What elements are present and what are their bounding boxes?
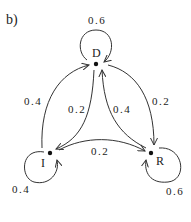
edge-label-i-i: 0.4: [12, 183, 30, 195]
node-d: D: [92, 46, 101, 66]
node-i-dot: [48, 151, 52, 155]
edge-label-d-d: 0.6: [88, 14, 106, 26]
markov-chain-diagram: b) 0.6 0.4 0.2 0.4 0.2 0.2 0.4 0.6 D I R: [0, 0, 191, 222]
node-i: I: [41, 151, 52, 170]
edge-label-r-d: 0.4: [113, 103, 131, 115]
node-d-dot: [94, 62, 98, 66]
node-i-label: I: [41, 156, 45, 170]
node-r: R: [149, 151, 164, 168]
node-r-dot: [149, 151, 153, 155]
edge-label-i-r: 0.2: [91, 145, 109, 157]
edge-label-d-r: 0.2: [152, 95, 170, 107]
node-r-label: R: [156, 154, 164, 168]
panel-label: b): [6, 12, 18, 28]
edge-label-r-r: 0.6: [166, 185, 184, 197]
node-d-label: D: [92, 46, 101, 60]
edge-label-d-i: 0.2: [68, 103, 86, 115]
edge-label-i-d: 0.4: [24, 95, 42, 107]
